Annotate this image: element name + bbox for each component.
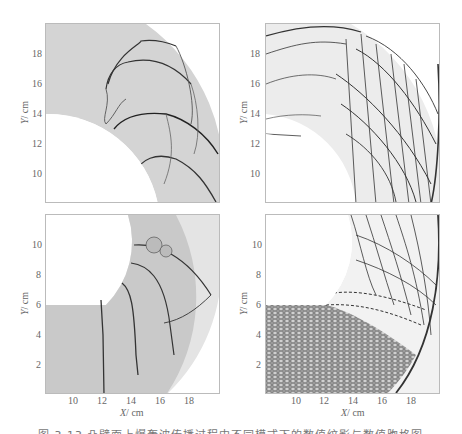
ytick: 18 [32,49,42,59]
figure-caption: 图 3.13 凸壁面上爆轰波传播过程中不同模式下的数值纹影与数值胞格图 [38,424,438,434]
ytick: 10 [32,169,42,179]
xtick: 10 [291,396,301,406]
ytick: 12 [32,139,42,149]
ylabel-bottom-right: Y/ cm [238,292,249,315]
ytick: 10 [250,169,260,179]
ytick: 10 [252,240,262,250]
xtick: 12 [319,396,329,406]
ytick: 18 [250,49,260,59]
xtick: 16 [377,396,387,406]
ytick: 4 [36,330,41,340]
ytick: 14 [32,109,42,119]
cellular-image [266,215,440,394]
ytick: 8 [36,270,41,280]
panel-top-right-cellular [265,23,440,203]
ytick: 4 [256,330,261,340]
xtick: 14 [348,396,358,406]
ytick: 6 [36,300,41,310]
xtick: 16 [155,396,165,406]
xlabel-bottom-right: X/ cm [341,407,365,418]
xlabel-bottom-left: X/ cm [120,407,144,418]
ytick: 2 [256,360,261,370]
panel-bottom-left-schlieren [45,214,220,394]
ytick: 6 [256,300,261,310]
xtick: 12 [97,396,107,406]
schlieren-image [46,215,220,394]
ytick: 12 [250,139,260,149]
panel-top-left-schlieren [45,23,220,203]
ytick: 14 [250,109,260,119]
ytick: 16 [250,79,260,89]
ytick: 2 [36,360,41,370]
cellular-image [266,24,440,203]
ylabel-top-right: Y/ cm [238,101,249,124]
schlieren-image [46,24,220,203]
xtick: 10 [68,396,78,406]
ylabel-top-left: Y/ cm [19,101,30,124]
ylabel-bottom-left: Y/ cm [19,292,30,315]
ytick: 8 [256,270,261,280]
panel-bottom-right-cellular [265,214,440,394]
ytick: 16 [32,79,42,89]
xtick: 14 [126,396,136,406]
ytick: 10 [32,240,42,250]
xtick: 18 [406,396,416,406]
xtick: 18 [184,396,194,406]
